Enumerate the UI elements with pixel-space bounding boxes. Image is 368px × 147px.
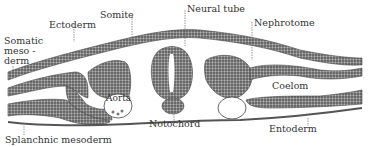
label-coelom: Coelom — [272, 81, 308, 91]
neural-tube — [151, 47, 192, 101]
notochord — [162, 98, 184, 114]
label-somatic-mesoderm-line3: derm — [4, 56, 29, 66]
somatic-mesoderm-right — [250, 65, 362, 80]
label-somite: Somite — [100, 10, 134, 20]
label-nephrotome: Nephrotome — [254, 18, 315, 28]
somite-right — [205, 55, 253, 98]
embryo-cross-section-diagram: Ectoderm Somite Neural tube Nephrotome S… — [0, 0, 368, 147]
splanchnic-mesoderm-right — [246, 90, 362, 108]
label-splanchnic-mesoderm: Splanchnic mesoderm — [5, 135, 112, 145]
label-aorta: Aorta — [106, 93, 131, 103]
label-ectoderm: Ectoderm — [49, 20, 96, 30]
right-aorta — [218, 97, 246, 119]
label-entoderm: Entoderm — [269, 124, 317, 134]
label-neural-tube: Neural tube — [187, 4, 245, 14]
label-notochord: Notochord — [149, 119, 200, 129]
